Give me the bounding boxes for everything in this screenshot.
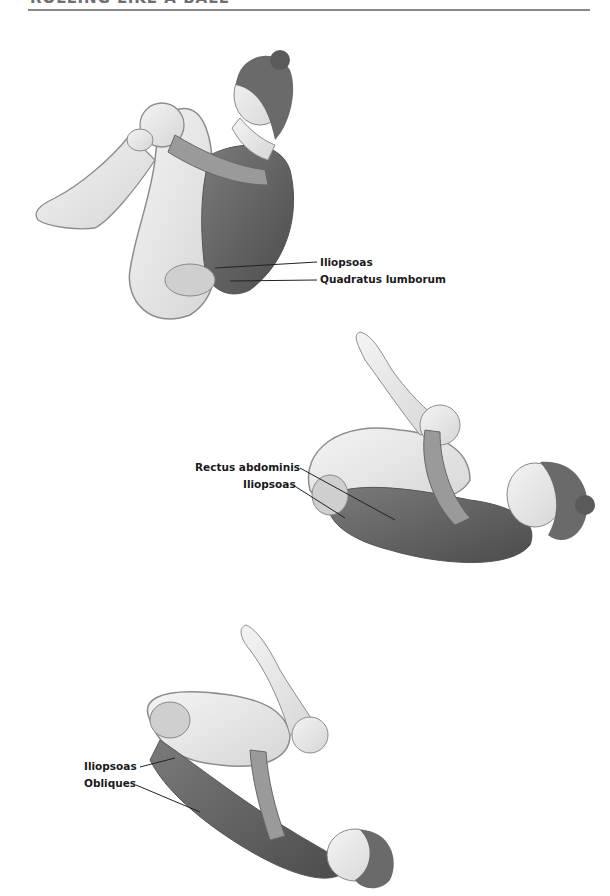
label-obliques: Obliques (84, 777, 136, 789)
label-quadratus-lumborum: Quadratus lumborum (320, 273, 446, 285)
label-iliopsoas-2: Iliopsoas (243, 478, 296, 490)
label-iliopsoas-3: Iliopsoas (84, 760, 137, 772)
figure-3 (147, 625, 393, 888)
label-iliopsoas-1: Iliopsoas (320, 256, 373, 268)
figure-2 (308, 332, 595, 563)
figure-1 (36, 50, 294, 319)
label-rectus-abdominis: Rectus abdominis (195, 461, 300, 473)
